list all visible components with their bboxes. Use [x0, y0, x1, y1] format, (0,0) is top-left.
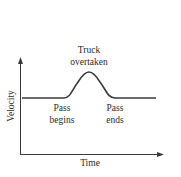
peak-label-line1: Truck: [78, 45, 101, 55]
end-label-line2: ends: [106, 115, 124, 125]
y-axis-arrow-icon: [18, 57, 23, 64]
start-label-line2: begins: [50, 115, 75, 125]
end-label-line1: Pass: [107, 103, 124, 113]
velocity-time-diagram: Truck overtaken Pass begins Pass ends Ve…: [0, 0, 181, 177]
x-axis-label: Time: [80, 158, 100, 168]
y-axis-label: Velocity: [6, 90, 16, 122]
velocity-curve: [22, 72, 156, 98]
peak-label-line2: overtaken: [70, 57, 108, 67]
start-label-line1: Pass: [54, 103, 71, 113]
x-axis-arrow-icon: [157, 152, 164, 157]
